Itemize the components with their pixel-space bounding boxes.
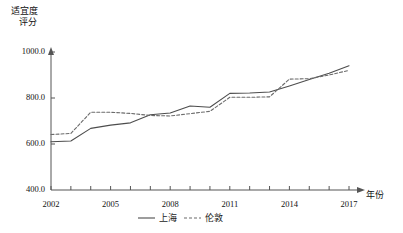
legend-line-swatch	[184, 214, 201, 222]
legend-item-label: 上海	[159, 211, 177, 224]
x-axis-arrow	[357, 187, 365, 193]
series-line-2	[51, 70, 349, 134]
y-axis-arrow	[48, 47, 54, 55]
legend-item-2[interactable]: 伦敦	[184, 211, 223, 224]
legend-item-label: 伦敦	[205, 211, 223, 224]
chart-container: 适宜度 评分 年份 400.0600.0800.01000.0 20022005…	[0, 0, 403, 233]
series-line-1	[51, 66, 349, 142]
legend-line-swatch	[138, 214, 155, 222]
plot-area	[0, 0, 403, 233]
legend-item-1[interactable]: 上海	[138, 211, 177, 224]
chart-legend: 上海伦敦	[138, 211, 223, 224]
